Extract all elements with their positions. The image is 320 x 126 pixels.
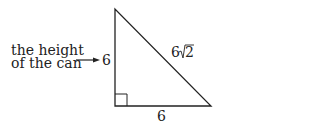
hypotenuse-radicand-label: 2	[185, 46, 194, 59]
arrow-head-icon	[93, 58, 100, 63]
base-side-label: 6	[157, 110, 166, 123]
right-angle-marker	[115, 94, 127, 106]
hypotenuse-coefficient-label: 6	[171, 46, 180, 59]
right-triangle	[115, 9, 211, 106]
vertical-side-label: 6	[102, 54, 111, 67]
